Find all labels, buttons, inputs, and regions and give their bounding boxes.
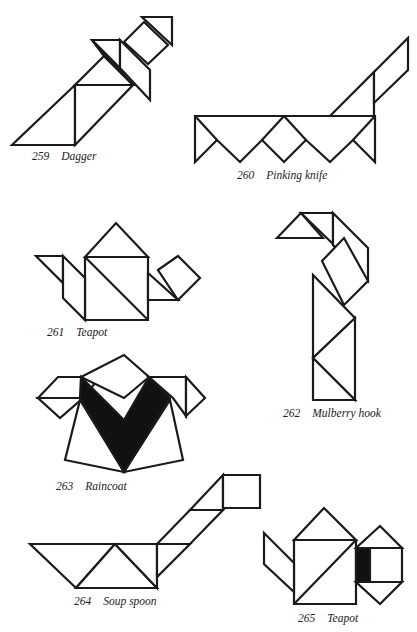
caption-265: 265Teapot [298, 612, 358, 624]
figure-title: Teapot [327, 612, 358, 624]
figure-number: 262 [283, 407, 300, 419]
figure-260-pinking-knife [195, 38, 408, 162]
figure-262-mulberry-hook [277, 213, 368, 400]
figure-title: Mulberry hook [312, 407, 381, 419]
caption-259: 259Dagger [32, 150, 96, 162]
caption-264: 264Soup spoon [74, 595, 157, 607]
figure-title: Soup spoon [103, 595, 156, 607]
figure-title: Raincoat [85, 480, 127, 492]
figure-259-dagger [12, 17, 172, 145]
figure-title: Dagger [61, 150, 96, 162]
figure-number: 259 [32, 150, 49, 162]
caption-260: 260Pinking knife [237, 169, 327, 181]
figure-265-teapot [264, 508, 402, 604]
figure-number: 263 [56, 480, 73, 492]
figure-title: Pinking knife [266, 169, 327, 181]
figure-number: 260 [237, 169, 254, 181]
figure-title: Teapot [76, 326, 107, 338]
figure-261-teapot [36, 223, 200, 320]
tangram-page [0, 0, 417, 632]
caption-261: 261Teapot [47, 326, 107, 338]
figure-number: 264 [74, 595, 91, 607]
caption-263: 263Raincoat [56, 480, 127, 492]
figure-number: 265 [298, 612, 315, 624]
figure-263-raincoat [38, 355, 205, 472]
caption-262: 262Mulberry hook [283, 407, 381, 419]
figure-number: 261 [47, 326, 64, 338]
